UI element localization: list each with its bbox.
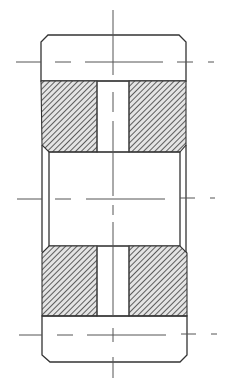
upper-left-hatched-block: [41, 81, 97, 152]
horizontal-centerline-middle: [17, 198, 215, 199]
bottom-ring: [42, 316, 187, 362]
upper-right-hatched-block: [129, 81, 186, 152]
lower-right-hatched-block: [129, 246, 187, 316]
lower-left-hatched-block: [42, 246, 97, 316]
section-drawing: [0, 0, 230, 386]
